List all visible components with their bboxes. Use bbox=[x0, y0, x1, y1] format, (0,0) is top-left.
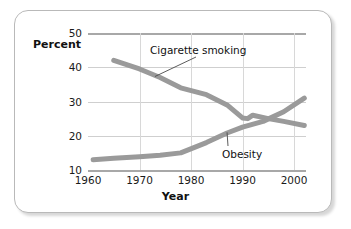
series-label-obesity: Obesity bbox=[222, 148, 262, 160]
series-line-obesity bbox=[93, 98, 304, 160]
chart-plot-lines bbox=[0, 0, 351, 229]
leader-line-cigarette-smoking bbox=[155, 57, 196, 77]
figure-root: Percent 1020304050 19601970198019902000 … bbox=[0, 0, 351, 229]
series-label-cigarette-smoking: Cigarette smoking bbox=[150, 44, 246, 56]
